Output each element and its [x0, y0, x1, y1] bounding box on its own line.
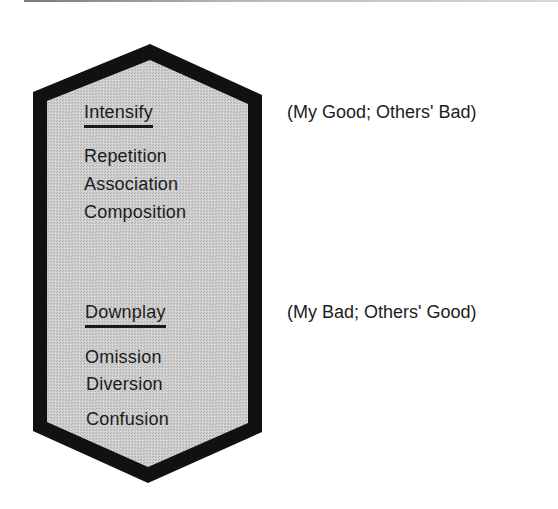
item-composition: Composition [84, 202, 186, 222]
hexagon-frame [0, 0, 558, 509]
item-association: Association [84, 174, 178, 194]
note-intensify: (My Good; Others' Bad) [287, 102, 477, 122]
item-confusion: Confusion [86, 409, 169, 429]
item-omission: Omission [85, 347, 162, 367]
item-repetition: Repetition [84, 146, 167, 166]
heading-intensify: Intensify [84, 102, 153, 128]
heading-downplay: Downplay [85, 302, 166, 328]
note-downplay: (My Bad; Others' Good) [287, 302, 477, 322]
item-diversion: Diversion [86, 374, 163, 394]
